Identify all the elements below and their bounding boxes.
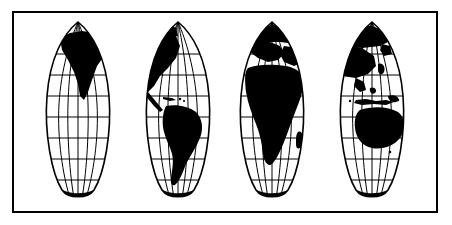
land-island-dot bbox=[349, 100, 351, 102]
land-island-dot bbox=[389, 151, 392, 154]
world-map-svg bbox=[0, 0, 452, 225]
land-island-dot bbox=[179, 98, 182, 101]
land-island-dot bbox=[183, 100, 185, 102]
figure-canvas bbox=[0, 0, 452, 225]
world-map-figure bbox=[0, 0, 452, 225]
